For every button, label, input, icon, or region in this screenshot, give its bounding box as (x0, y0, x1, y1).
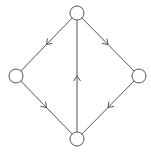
node-left (9, 69, 23, 83)
node-bottom (70, 132, 84, 146)
node-right (132, 69, 146, 83)
node-top (70, 6, 84, 20)
directed-graph-diagram (0, 0, 151, 154)
